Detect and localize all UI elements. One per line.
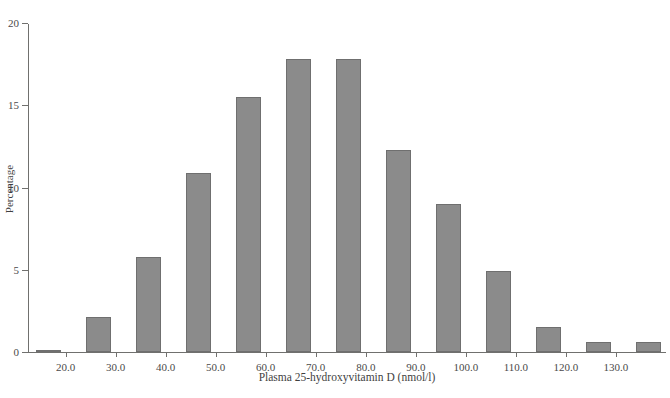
- x-axis-tick: 70.0: [316, 352, 317, 357]
- histogram-bar: [586, 342, 611, 352]
- y-axis-tick-label: 0: [14, 346, 20, 358]
- y-axis-tick: 20: [22, 23, 28, 24]
- histogram-bar: [486, 271, 511, 352]
- y-axis-tick: 0: [22, 352, 28, 353]
- histogram-bar: [36, 350, 61, 352]
- histogram-bar: [86, 317, 111, 352]
- y-axis-tick-label: 20: [8, 17, 19, 29]
- y-axis-tick: 5: [22, 270, 28, 271]
- histogram-bar: [436, 204, 461, 352]
- histogram-bar: [236, 97, 261, 352]
- x-axis-tick: 60.0: [266, 352, 267, 357]
- x-axis-tick: 100.0: [466, 352, 467, 357]
- figure-top-caption: [0, 0, 670, 3]
- histogram-bar: [186, 173, 211, 352]
- x-axis-tick: 40.0: [166, 352, 167, 357]
- histogram-bar: [536, 327, 561, 352]
- x-axis-tick: 20.0: [66, 352, 67, 357]
- y-axis-line: [28, 24, 29, 353]
- y-axis-tick-label: 15: [8, 99, 19, 111]
- x-axis-tick: 130.0: [616, 352, 617, 357]
- plot-area: 05101520 20.030.040.050.060.070.080.090.…: [28, 24, 666, 353]
- x-axis-tick: 110.0: [516, 352, 517, 357]
- x-axis-tick: 80.0: [366, 352, 367, 357]
- y-axis-tick-label: 10: [8, 182, 19, 194]
- histogram-bar: [336, 59, 361, 352]
- y-axis-tick-label: 5: [14, 264, 20, 276]
- histogram-bar: [636, 342, 661, 352]
- y-axis-tick: 15: [22, 105, 28, 106]
- x-axis-title: Plasma 25-hydroxyvitamin D (nmol/l): [28, 371, 666, 383]
- x-axis-line: [28, 352, 666, 353]
- x-axis-tick: 50.0: [216, 352, 217, 357]
- histogram-bar: [386, 150, 411, 352]
- y-axis-tick: 10: [22, 188, 28, 189]
- x-axis-tick: 120.0: [566, 352, 567, 357]
- x-axis-tick: 90.0: [416, 352, 417, 357]
- histogram-figure: Percentage 05101520 20.030.040.050.060.0…: [0, 0, 670, 398]
- histogram-bar: [286, 59, 311, 352]
- histogram-bar: [136, 257, 161, 352]
- x-axis-tick: 30.0: [116, 352, 117, 357]
